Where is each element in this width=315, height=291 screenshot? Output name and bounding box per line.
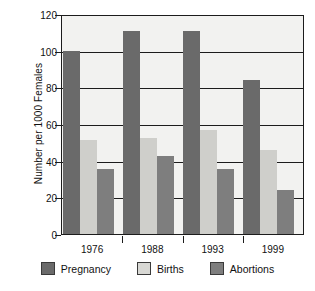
x-tick-label: 1993 <box>183 244 243 255</box>
y-tick-label: 60 <box>17 120 57 131</box>
x-tick-mark <box>122 236 123 243</box>
legend-swatch-pregnancy-icon <box>41 262 55 275</box>
bar-1988-pregnancy <box>123 31 140 234</box>
y-tick-mark <box>55 162 61 163</box>
legend-label: Births <box>157 263 184 275</box>
legend-item-abortions: Abortions <box>210 262 274 275</box>
bar-1999-pregnancy <box>243 80 260 234</box>
legend-label: Abortions <box>230 263 274 275</box>
y-tick-mark <box>55 88 61 89</box>
legend-item-pregnancy: Pregnancy <box>41 262 111 275</box>
bar-1976-abortions <box>97 169 114 234</box>
legend-label: Pregnancy <box>61 263 111 275</box>
y-tick-mark <box>55 15 61 16</box>
bar-1993-births <box>200 130 217 234</box>
x-tick-label: 1988 <box>122 244 182 255</box>
bar-1999-births <box>260 150 277 234</box>
y-tick-label: 0 <box>17 230 57 241</box>
x-tick-label: 1976 <box>62 244 122 255</box>
chart-legend: PregnancyBirthsAbortions <box>0 262 315 275</box>
y-tick-label: 20 <box>17 193 57 204</box>
bar-chart: Number per 1000 Females 020406080100120 … <box>0 0 315 291</box>
bar-1988-abortions <box>157 156 174 234</box>
y-tick-mark <box>55 235 61 236</box>
y-tick-label: 120 <box>17 10 57 21</box>
y-tick-label: 100 <box>17 46 57 57</box>
bars-layer <box>62 16 303 234</box>
x-tick-mark <box>183 236 184 243</box>
y-tick-mark <box>55 52 61 53</box>
bar-1976-pregnancy <box>63 51 80 234</box>
x-tick-mark <box>243 236 244 243</box>
legend-item-births: Births <box>137 262 184 275</box>
bar-1993-pregnancy <box>183 31 200 234</box>
bar-1976-births <box>80 140 97 234</box>
y-tick-label: 40 <box>17 156 57 167</box>
legend-swatch-births-icon <box>137 262 151 275</box>
y-tick-mark <box>55 125 61 126</box>
y-tick-mark <box>55 198 61 199</box>
x-tick-label: 1999 <box>243 244 303 255</box>
bar-1993-abortions <box>217 169 234 234</box>
legend-swatch-abortions-icon <box>210 262 224 275</box>
y-tick-label: 80 <box>17 83 57 94</box>
bar-1988-births <box>140 138 157 234</box>
bar-1999-abortions <box>277 190 294 234</box>
